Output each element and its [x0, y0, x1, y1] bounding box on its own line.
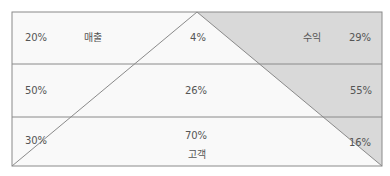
sales-label: 매출 [84, 33, 102, 43]
row2-left-value: 50% [25, 86, 47, 96]
row1-right-value: 29% [349, 33, 371, 43]
customer-label: 고객 [188, 150, 206, 160]
triangle-proportion-diagram: 20% 매출 4% 수익 29% 50% 26% 55% 30% 70% 고객 … [0, 0, 390, 176]
row3-right-value: 16% [349, 138, 371, 148]
row1-center-value: 4% [190, 33, 206, 43]
row2-center-value: 26% [185, 86, 207, 96]
profit-label: 수익 [303, 33, 321, 43]
row2-right-value: 55% [350, 86, 372, 96]
row1-left-value: 20% [25, 33, 47, 43]
row3-left-value: 30% [25, 136, 47, 146]
row3-center-value: 70% [185, 131, 207, 141]
